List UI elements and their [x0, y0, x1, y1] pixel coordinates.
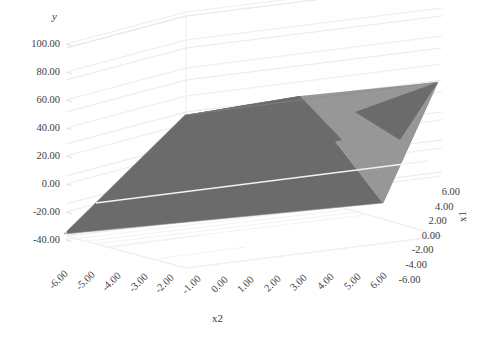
x1-axis-title: x1	[456, 211, 468, 222]
x1-axis-tick-label: -4.00	[375, 259, 427, 270]
y-axis-tick-label: -40.00	[0, 234, 60, 245]
y-axis-tick-label: 100.00	[0, 38, 60, 49]
y-axis-tick-label: -20.00	[0, 206, 60, 217]
x1-axis-tick-label: -2.00	[382, 244, 434, 255]
x1-axis-tick-label: 0.00	[388, 230, 440, 241]
x1-axis-tick-label: -6.00	[368, 274, 420, 285]
x1-axis-tick-label: 6.00	[408, 186, 460, 197]
y-axis-tick-label: 0.00	[0, 178, 60, 189]
y-axis-title: y	[52, 10, 57, 22]
y-axis-tick-label: 20.00	[0, 150, 60, 161]
y-axis-tick-label: 80.00	[0, 66, 60, 77]
x1-axis-tick-label: 2.00	[395, 215, 447, 226]
y-axis-tick-label: 40.00	[0, 122, 60, 133]
x2-axis-title: x2	[212, 312, 223, 324]
x1-axis-tick-label: 4.00	[401, 201, 453, 212]
y-axis-tick-label: 60.00	[0, 94, 60, 105]
surface-chart: y x2 x1 100.0080.0060.0040.0020.000.00-2…	[0, 0, 481, 337]
